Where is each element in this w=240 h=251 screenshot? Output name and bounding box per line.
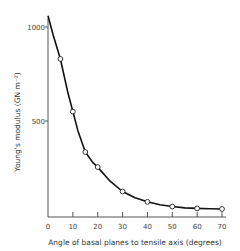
x-tick-label: 0 [46, 223, 50, 231]
y-tick-label: 1000 [27, 24, 45, 32]
data-points [58, 57, 224, 212]
data-point [170, 204, 175, 209]
data-point [195, 206, 200, 211]
axis-labels: Angle of basal planes to tensile axis (d… [13, 72, 222, 247]
data-point [83, 150, 88, 155]
data-point [220, 207, 225, 212]
x-tick-label: 20 [93, 223, 102, 231]
data-point [70, 109, 75, 114]
data-point [95, 165, 100, 170]
x-tick-label: 10 [68, 223, 77, 231]
y-tick-label: 500 [32, 118, 45, 126]
x-tick-label: 50 [168, 223, 177, 231]
data-point [145, 199, 150, 204]
youngs-modulus-chart: 0102030405060705001000 Angle of basal pl… [0, 0, 240, 251]
x-axis-label: Angle of basal planes to tensile axis (d… [48, 238, 222, 247]
x-tick-label: 30 [118, 223, 127, 231]
x-tick-label: 70 [218, 223, 227, 231]
data-point [120, 189, 125, 194]
x-tick-label: 40 [143, 223, 152, 231]
data-point [58, 57, 63, 62]
y-axis-label: Young's modulus (GN m⁻²) [13, 72, 22, 172]
x-tick-label: 60 [193, 223, 202, 231]
